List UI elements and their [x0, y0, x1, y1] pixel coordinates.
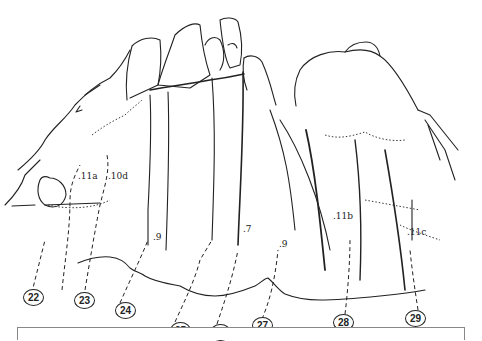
grade-label-29: .11c — [407, 227, 426, 237]
grade-label-24: .9 — [153, 232, 162, 242]
grade-label-27: .9 — [279, 239, 288, 249]
route-number-22: 22 — [23, 289, 44, 306]
grade-label-23: .10d — [108, 171, 128, 181]
route-number-29: 29 — [405, 310, 426, 327]
grade-label-26: .7 — [243, 224, 252, 234]
route-number-24: 24 — [115, 302, 136, 319]
grade-label-22: .11a — [78, 171, 98, 181]
caption-box — [17, 327, 465, 340]
grade-label-28: .11b — [333, 211, 353, 221]
route-number-23: 23 — [74, 292, 95, 309]
